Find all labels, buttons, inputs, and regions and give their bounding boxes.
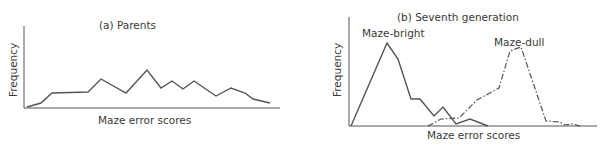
maze-dull-label: Maze-dull [494,36,544,48]
chart-title: (b) Seventh generation [397,11,519,23]
y-axis-label: Frequency [331,43,343,97]
figure: (a) Parents Maze error scores Frequency … [0,0,609,149]
y-axis-label: Frequency [7,43,19,97]
chart-title: (a) Parents [99,19,156,31]
x-axis-label: Maze error scores [98,114,191,126]
chart-seventh-generation: (b) Seventh generation Maze-bright Maze-… [331,11,597,141]
maze-dull-line [428,47,580,126]
maze-bright-line [351,43,488,126]
maze-bright-label: Maze-bright [362,27,425,39]
x-axis-label: Maze error scores [427,129,520,141]
parents-line [27,70,270,107]
chart-parents: (a) Parents Maze error scores Frequency [7,19,280,126]
